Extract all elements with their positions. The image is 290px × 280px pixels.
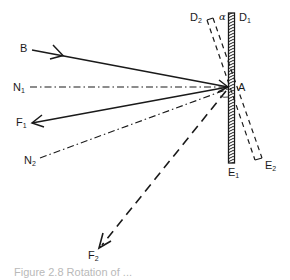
label-alpha: α	[219, 12, 226, 22]
reflected-ray-f1	[32, 87, 228, 127]
label-d2-sub: 2	[198, 17, 202, 24]
label-n2-main: N	[24, 154, 32, 166]
original-mirror-d1e1	[229, 13, 235, 163]
label-d2-main: D	[190, 11, 198, 23]
reflected-ray-f2	[99, 91, 226, 248]
label-f1-sub: 1	[23, 122, 27, 129]
label-e2-sub: 2	[272, 165, 276, 172]
label-a: A	[238, 82, 245, 93]
label-d1-main: D	[239, 11, 247, 23]
label-e1-sub: 1	[235, 172, 239, 179]
label-d1: D1	[239, 12, 251, 24]
label-e1: E1	[228, 167, 239, 179]
incident-ray-b	[32, 45, 228, 92]
label-n1: N1	[13, 82, 25, 94]
label-f2: F2	[88, 250, 99, 262]
label-n1-sub: 1	[21, 87, 25, 94]
label-n1-main: N	[13, 81, 21, 93]
label-b: B	[20, 43, 27, 54]
label-d2: D2	[190, 12, 202, 24]
label-f2-sub: 2	[95, 255, 99, 262]
normal-n2-line	[40, 89, 228, 158]
label-n2: N2	[24, 155, 36, 167]
label-d1-sub: 1	[247, 17, 251, 24]
label-f2-main: F	[88, 249, 95, 261]
figure-caption: Figure 2.8 Rotation of ...	[14, 266, 132, 278]
label-f1-main: F	[16, 116, 23, 128]
label-f1: F1	[16, 117, 27, 129]
label-n2-sub: 2	[32, 160, 36, 167]
label-e2: E2	[265, 160, 276, 172]
